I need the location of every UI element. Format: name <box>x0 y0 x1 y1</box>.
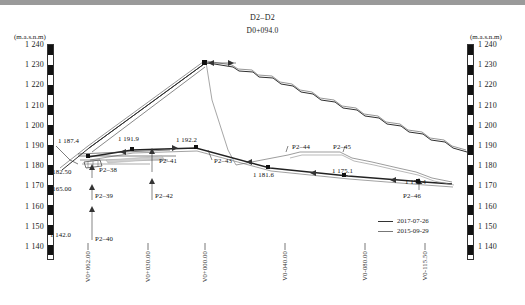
elevation-annotation: 1 192.2 <box>176 136 197 143</box>
elevation-annotation: 1 191.9 <box>118 135 139 142</box>
profile-line-2017 <box>62 63 467 170</box>
toe-shade-wedge <box>106 156 164 163</box>
measurement-point-label: P2–43 <box>214 157 232 164</box>
x-axis-chainage-label: V0+000.00 <box>201 251 208 282</box>
measurement-point-label: P2–41 <box>159 157 177 164</box>
measurement-point-label: P2–39 <box>95 192 113 199</box>
x-axis-chainage-label: V0-115.50 <box>421 251 428 281</box>
legend-label: 2015-09-29 <box>397 226 429 236</box>
elevation-annotation: 1 181.6 <box>253 171 274 178</box>
x-axis-chainage-label: V0+030.00 <box>144 251 151 282</box>
legend-label: 2017-07-26 <box>397 216 429 226</box>
legend-item: 2017-07-26 <box>378 216 429 226</box>
measurement-point-label: P2–45 <box>333 143 351 150</box>
measurement-point-label: P2–38 <box>99 166 117 173</box>
measurement-point-label: P2–46 <box>403 192 421 199</box>
measurement-point-markers <box>86 60 420 183</box>
elevation-annotation: 1 170.4 <box>405 178 426 185</box>
x-axis-chainage-label: V0+062.00 <box>84 251 91 282</box>
x-axis-chainage-label: V0-080.00 <box>361 251 368 281</box>
foundation-left-line <box>56 146 78 164</box>
elevation-annotation: 1 182.50 <box>47 168 72 175</box>
measurement-point-label: P2–40 <box>95 235 113 242</box>
legend-item: 2015-09-29 <box>378 226 429 236</box>
elevation-annotation: 1 142.0 <box>50 231 71 238</box>
measurement-point-label: P2–42 <box>155 192 173 199</box>
legend: 2017-07-262015-09-29 <box>378 216 429 236</box>
elevation-annotation: 1 187.4 <box>58 137 79 144</box>
core-boundary-line <box>206 62 236 165</box>
measurement-point-label: P2–44 <box>292 143 310 150</box>
legend-swatch <box>378 221 393 222</box>
section-drawing <box>0 0 525 305</box>
elevation-annotation: 1 165.00 <box>47 185 72 192</box>
cross-section-figure: D2–D2 D0+094.0 (m.a.s.n.m) (m.a.s.n.m) 1… <box>0 0 525 305</box>
elevation-annotation: 1 175.1 <box>332 167 353 174</box>
x-axis-chainage-label: V0-040.00 <box>281 251 288 281</box>
instrument-alignment-line-prev <box>90 151 453 187</box>
legend-swatch <box>378 231 393 232</box>
x-axis-ticks <box>88 243 425 250</box>
